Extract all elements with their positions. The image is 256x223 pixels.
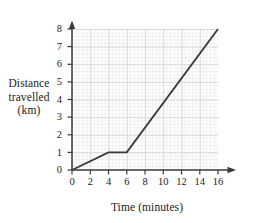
data-line-journey [72, 29, 218, 170]
x-axis-arrowhead [228, 167, 237, 173]
x-tick-label-14: 14 [192, 177, 208, 188]
y-tick-label-5: 5 [48, 77, 62, 88]
x-tick-label-0: 0 [64, 177, 80, 188]
y-tick-label-6: 6 [48, 59, 62, 70]
y-axis-arrowhead [69, 21, 75, 30]
chart-overlay [58, 17, 242, 192]
y-tick-label-0: 0 [48, 165, 62, 176]
axis-lines [69, 21, 236, 174]
y-tick-label-8: 8 [48, 24, 62, 35]
y-tick-label-2: 2 [48, 130, 62, 141]
y-tick-label-4: 4 [48, 95, 62, 106]
x-tick-label-4: 4 [101, 177, 117, 188]
x-tick-label-8: 8 [137, 177, 153, 188]
distance-time-chart: Distance travelled (km) [0, 0, 256, 223]
y-tick-label-7: 7 [48, 42, 62, 53]
y-tick-label-1: 1 [48, 148, 62, 159]
x-tick-label-6: 6 [119, 177, 135, 188]
x-tick-label-2: 2 [82, 177, 98, 188]
plot-area: 0 1 2 3 4 5 6 7 8 0 2 4 6 8 10 12 14 16 [72, 29, 218, 170]
x-tick-label-16: 16 [210, 177, 226, 188]
x-tick-label-10: 10 [155, 177, 171, 188]
x-axis-title: Time (minutes) [62, 201, 232, 214]
y-tick-label-3: 3 [48, 112, 62, 123]
x-tick-label-12: 12 [174, 177, 190, 188]
